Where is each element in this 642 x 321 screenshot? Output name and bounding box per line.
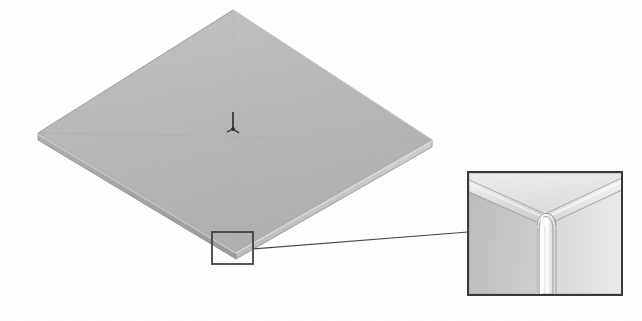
illustration-canvas: [0, 0, 642, 321]
square-plate: [38, 10, 432, 259]
detail-leader-line: [253, 232, 468, 249]
axis-origin-dot: [232, 128, 235, 131]
technical-illustration-figure: [0, 0, 642, 321]
detail-magnified-box[interactable]: [468, 172, 622, 295]
detail-view-content: [469, 173, 622, 294]
